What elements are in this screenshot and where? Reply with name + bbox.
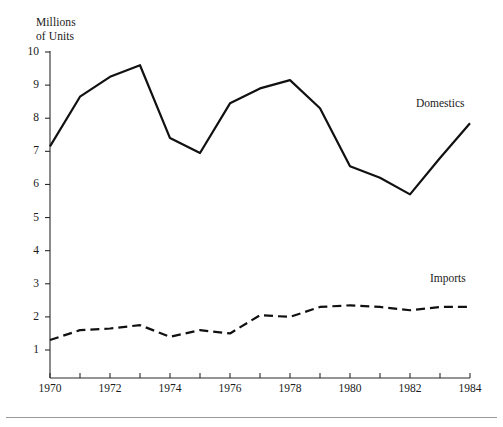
chart-figure: Millions of Units 12345678910 1970197219… (0, 0, 503, 427)
x-tick-label: 1984 (450, 382, 490, 394)
y-tick-label: 7 (17, 144, 39, 156)
y-tick-label: 5 (17, 211, 39, 223)
x-tick-label: 1980 (330, 382, 370, 394)
x-tick-label: 1976 (210, 382, 250, 394)
series-label-imports: Imports (430, 272, 466, 284)
y-tick-label: 1 (17, 343, 39, 355)
series-line-imports (50, 305, 470, 340)
y-tick-label: 4 (17, 244, 39, 256)
footer-rule (6, 417, 497, 418)
y-tick-label: 6 (17, 177, 39, 189)
series-line-domestics (50, 65, 470, 194)
x-tick-label: 1978 (270, 382, 310, 394)
x-tick-label: 1970 (30, 382, 70, 394)
y-tick-label: 2 (17, 310, 39, 322)
series-label-domestics: Domestics (416, 97, 465, 109)
x-tick-label: 1982 (390, 382, 430, 394)
plot-svg (0, 0, 503, 400)
y-tick-label: 10 (17, 45, 39, 57)
y-tick-label: 8 (17, 111, 39, 123)
x-tick-label: 1972 (90, 382, 130, 394)
y-tick-label: 3 (17, 277, 39, 289)
y-tick-label: 9 (17, 78, 39, 90)
x-tick-label: 1974 (150, 382, 190, 394)
plot-area (0, 0, 503, 400)
